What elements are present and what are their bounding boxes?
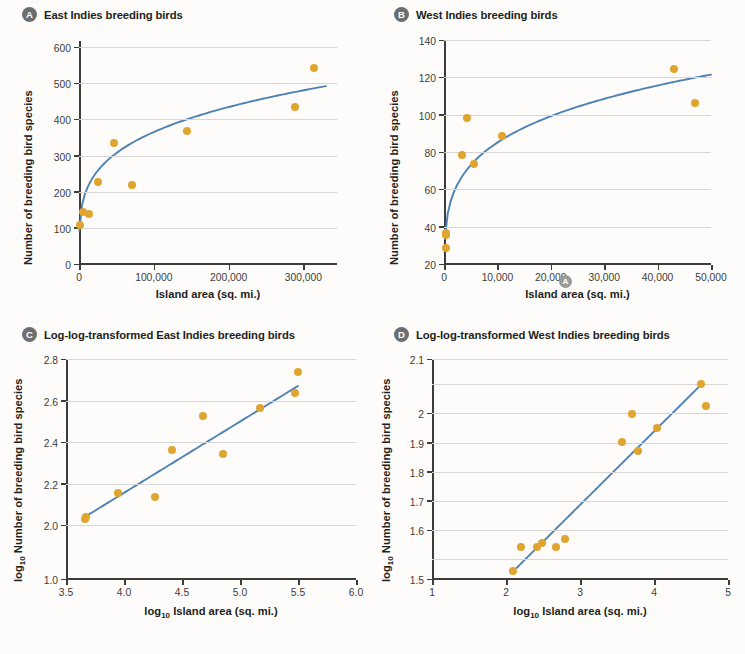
panel-d-x-axis-title: log10 Island area (sq. mi.) <box>432 605 728 620</box>
x-axis-tick-label: 3.5 <box>59 587 73 598</box>
y-axis-tick-label: 1.8 <box>410 467 424 478</box>
data-point <box>634 447 642 455</box>
panel-d-y-axis <box>432 360 434 580</box>
data-point <box>128 181 136 189</box>
panel-c-badge: C <box>22 327 37 342</box>
data-point <box>310 64 318 72</box>
data-point <box>256 404 264 412</box>
x-axis-tick <box>604 265 606 270</box>
gridline <box>432 472 728 473</box>
gridline <box>66 359 356 360</box>
x-axis-tick <box>66 580 68 585</box>
y-axis-tick-label: 2.2 <box>44 479 58 490</box>
x-axis-tick <box>711 265 713 270</box>
panel-c-x-axis-title-sub: 10 <box>161 611 170 620</box>
x-axis-tick-label: 3 <box>577 587 583 598</box>
y-axis-tick-label: 60 <box>425 185 436 196</box>
x-axis-tick-label: 4.0 <box>117 587 131 598</box>
x-axis-tick <box>654 580 656 585</box>
x-axis-tick <box>356 580 358 585</box>
x-axis-tick <box>298 580 300 585</box>
figure-panel-grid: A East Indies breeding birds 01002003004… <box>0 0 745 654</box>
x-axis-tick-label: 6.0 <box>349 587 363 598</box>
x-axis-tick <box>728 580 730 585</box>
gridline <box>79 119 337 120</box>
y-axis-tick <box>74 47 79 49</box>
gridline <box>79 228 337 229</box>
y-axis-tick-label: 100 <box>54 223 71 234</box>
panel-c-header: C Log-log-transformed East Indies breedi… <box>22 327 295 342</box>
y-axis-tick-label: 120 <box>419 73 436 84</box>
gridline <box>432 443 728 444</box>
x-axis-tick-label: 10,000 <box>482 272 514 283</box>
gridline <box>444 152 711 153</box>
y-axis-tick <box>439 77 444 79</box>
panel-a-x-axis-title: Island area (sq. mi.) <box>79 288 337 300</box>
x-axis-tick <box>229 265 231 270</box>
panel-a-y-axis-title: Number of breeding bird species <box>22 90 34 265</box>
panel-b-y-axis-title: Number of breeding bird species <box>388 90 400 265</box>
panel-a-trend-line <box>79 41 337 265</box>
data-point <box>653 424 661 432</box>
y-axis-tick-label: 0 <box>65 260 71 271</box>
panel-a-badge: A <box>22 7 37 22</box>
gridline <box>432 384 728 385</box>
data-point <box>442 229 450 237</box>
x-axis-tick <box>240 580 242 585</box>
y-axis-tick <box>427 359 432 361</box>
x-axis-tick-label: 200,000 <box>210 272 247 283</box>
panel-b-title: West Indies breeding birds <box>416 9 558 21</box>
x-axis-tick-label: 0 <box>441 272 447 283</box>
gridline <box>79 83 337 84</box>
x-axis-tick <box>303 265 305 270</box>
gridline <box>444 227 711 228</box>
gridline <box>432 501 728 502</box>
panel-d-x-axis-title-prefix: log <box>513 605 530 617</box>
panel-a-x-axis <box>79 263 337 265</box>
panel-c: C Log-log-transformed East Indies breedi… <box>0 320 372 654</box>
x-axis-tick-label: 4.5 <box>175 587 189 598</box>
y-axis-tick <box>61 359 66 361</box>
gridline <box>444 189 711 190</box>
y-axis-tick <box>74 119 79 121</box>
panel-d-badge: D <box>394 327 409 342</box>
y-axis-tick-label: 100 <box>419 110 436 121</box>
x-axis-tick <box>182 580 184 585</box>
x-axis-tick <box>124 580 126 585</box>
data-point <box>517 543 525 551</box>
data-point <box>76 221 84 229</box>
data-point <box>294 368 302 376</box>
y-axis-tick <box>439 226 444 228</box>
data-point <box>618 438 626 446</box>
y-axis-tick-label: 140 <box>419 36 436 47</box>
y-axis-tick <box>427 500 432 502</box>
data-point <box>628 410 636 418</box>
x-axis-tick <box>551 265 553 270</box>
x-axis-tick-label: 5.0 <box>233 587 247 598</box>
gridline <box>66 401 356 402</box>
panel-d-x-axis-title-sub: 10 <box>530 611 539 620</box>
panel-d-trend-line <box>432 360 728 580</box>
data-point <box>470 160 478 168</box>
data-point <box>538 539 546 547</box>
panel-d-y-axis-title-rest: Number of breeding bird species <box>380 378 392 556</box>
panel-b: B West Indies breeding birds 20406080100… <box>372 0 745 320</box>
panel-c-y-axis-title-sub: 10 <box>18 556 27 565</box>
y-axis-tick-label: 1.5 <box>410 575 424 586</box>
data-point <box>183 127 191 135</box>
panel-a-title: East Indies breeding birds <box>44 9 183 21</box>
data-point <box>670 65 678 73</box>
x-axis-tick-label: 50,000 <box>695 272 727 283</box>
y-axis-tick-label: 200 <box>54 187 71 198</box>
x-axis-tick-label: 40,000 <box>642 272 674 283</box>
panel-a-y-axis <box>79 41 81 265</box>
x-axis-tick-label: 30,000 <box>588 272 620 283</box>
y-axis-tick <box>61 483 66 485</box>
y-axis-tick-label: 40 <box>425 222 436 233</box>
gridline <box>444 77 711 78</box>
y-axis-tick-label: 2.8 <box>44 355 58 366</box>
y-axis-tick <box>439 40 444 42</box>
x-axis-tick <box>444 265 446 270</box>
y-axis-tick <box>74 191 79 193</box>
data-point <box>498 132 506 140</box>
